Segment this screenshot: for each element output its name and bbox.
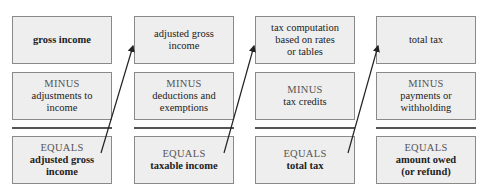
flow-arrows	[0, 0, 483, 192]
arrow-icon	[101, 46, 133, 153]
arrow-icon	[348, 46, 378, 153]
arrow-icon	[224, 46, 254, 153]
